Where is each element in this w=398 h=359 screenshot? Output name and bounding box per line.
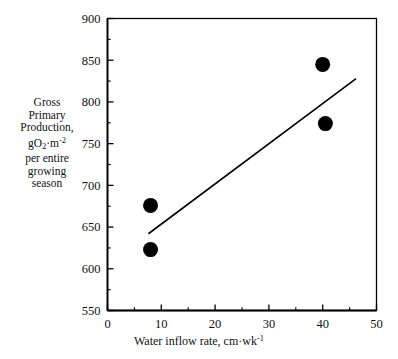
x-axis-title-superscript: -1 [257,333,264,343]
y-axis-title: Gross Primary Production, gO2·m-2 per en… [8,96,86,190]
x-tick-label: 30 [263,317,276,331]
x-axis-title: Water inflow rate, cm·wk-1 [0,333,398,349]
y-axis-units-g-o: gO [28,137,42,149]
y-axis-units-superscript: -2 [59,135,66,145]
y-axis-title-line-2: Primary [8,109,86,122]
data-point-3 [315,57,330,72]
x-tick-label: 20 [209,317,222,331]
x-axis-title-text: Water inflow rate, cm·wk [134,334,257,348]
y-tick-label: 850 [82,54,101,68]
y-tick-label: 650 [82,220,101,234]
y-axis-title-line-7: season [8,177,86,190]
data-point-2 [143,242,158,257]
y-axis-title-line-4: gO2·m-2 [8,134,86,152]
y-tick-label: 600 [82,262,101,276]
x-tick-label: 40 [316,317,329,331]
x-tick-label: 10 [155,317,168,331]
y-axis-title-line-6: growing [8,165,86,178]
y-axis-units-m: ·m [46,137,59,149]
y-tick-label: 550 [82,304,101,318]
data-point-4 [318,116,333,131]
y-axis-title-line-5: per entire [8,152,86,165]
y-axis-title-line-1: Gross [8,96,86,109]
data-point-1 [143,198,158,213]
x-tick-label: 50 [370,317,383,331]
x-tick-label: 0 [104,317,110,331]
y-axis-title-line-3: Production, [8,121,86,134]
chart-figure: 01020304050 550600650700750800850900 Gro… [0,0,398,359]
y-tick-label: 900 [82,12,101,26]
